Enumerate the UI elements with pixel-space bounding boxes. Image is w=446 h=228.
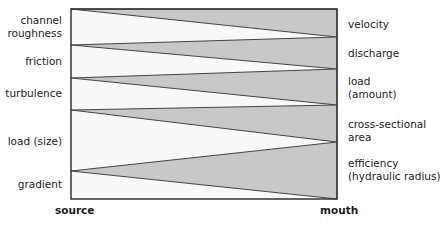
axis-source-label: source <box>55 204 94 216</box>
label-discharge: discharge <box>348 47 446 60</box>
label-gradient: gradient <box>0 178 62 191</box>
label-line: roughness <box>0 27 62 40</box>
axis-mouth-label: mouth <box>320 204 358 216</box>
label-turbulence: turbulence <box>0 87 62 100</box>
label-cross-sectional-area: cross-sectional area <box>348 118 446 143</box>
label-load-amount: load (amount) <box>348 75 446 100</box>
label-velocity: velocity <box>348 18 446 31</box>
label-efficiency: efficiency (hydraulic radius) <box>348 157 446 182</box>
label-line: (amount) <box>348 88 446 101</box>
label-channel-roughness: channel roughness <box>0 14 62 39</box>
label-line: channel <box>0 14 62 27</box>
wedge-diagram <box>0 0 446 228</box>
label-line: (hydraulic radius) <box>348 170 446 183</box>
label-line: efficiency <box>348 157 446 170</box>
label-load-size: load (size) <box>0 135 62 148</box>
label-friction: friction <box>0 55 62 68</box>
label-line: load <box>348 75 446 88</box>
